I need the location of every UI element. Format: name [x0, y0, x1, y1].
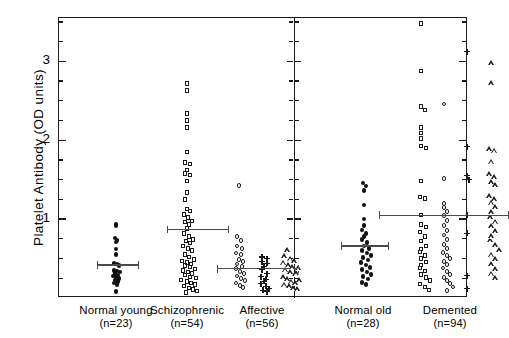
data-point-filled-circle — [366, 277, 371, 282]
y-tick-minor — [462, 159, 466, 160]
y-tick-minor — [462, 258, 466, 259]
data-point-open-circle — [442, 176, 447, 181]
y-tick-major — [459, 61, 466, 62]
data-point-open-square — [195, 289, 199, 293]
data-point-open-circle — [445, 288, 450, 293]
data-point-open-square — [419, 179, 423, 183]
data-point-open-circle — [448, 272, 453, 277]
data-point-open-square — [180, 259, 184, 263]
data-point-plus — [464, 273, 470, 279]
data-point-open-square — [188, 209, 192, 213]
data-point-filled-circle — [360, 248, 365, 253]
data-point-open-square — [419, 136, 423, 140]
data-point-triangle — [492, 278, 498, 283]
data-point-open-circle — [445, 246, 450, 251]
data-point-filled-circle — [114, 252, 119, 257]
data-point-open-square — [185, 88, 189, 92]
data-point-open-square — [185, 111, 189, 115]
data-point-filled-circle — [362, 217, 367, 222]
divider-tick — [287, 61, 293, 62]
data-point-plus — [466, 177, 472, 183]
divider-tick — [287, 218, 293, 219]
data-point-open-square — [419, 144, 423, 148]
data-point-open-square — [185, 179, 189, 183]
divider-tick — [289, 80, 293, 81]
data-point-filled-circle — [369, 272, 374, 277]
y-tick-major — [59, 140, 66, 141]
divider-tick — [289, 159, 293, 160]
data-point-open-square — [193, 267, 197, 271]
data-point-open-square — [418, 250, 422, 254]
data-point-open-square — [194, 276, 198, 280]
data-point-open-square — [424, 244, 428, 248]
divider-tick — [289, 238, 293, 239]
data-point-triangle — [291, 260, 297, 265]
data-point-open-square — [190, 248, 194, 252]
mean-error-bar — [97, 264, 139, 265]
y-tick-minor — [462, 100, 466, 101]
data-point-open-square — [419, 239, 423, 243]
data-point-open-square — [183, 160, 187, 164]
data-point-open-square — [185, 81, 189, 85]
mean-error-bar — [167, 229, 229, 230]
data-point-triangle — [492, 185, 498, 190]
data-point-open-square — [419, 272, 423, 276]
data-point-open-square — [419, 125, 423, 129]
data-point-filled-circle — [364, 282, 369, 287]
data-point-open-circle — [241, 285, 246, 290]
divider-tick — [295, 179, 299, 180]
data-point-open-square — [182, 284, 186, 288]
divider-tick — [289, 120, 293, 121]
data-point-open-circle — [237, 183, 242, 188]
data-point-open-square — [181, 268, 185, 272]
data-point-open-square — [185, 190, 189, 194]
data-point-open-square — [418, 230, 422, 234]
data-point-filled-circle — [367, 246, 372, 251]
data-point-plus — [464, 230, 470, 236]
divider-tick — [289, 100, 293, 101]
data-point-open-square — [423, 196, 427, 200]
data-point-open-circle — [239, 238, 244, 243]
divider-tick — [295, 100, 299, 101]
data-point-triangle — [294, 289, 300, 294]
data-point-open-circle — [448, 256, 453, 261]
data-point-open-square — [193, 282, 197, 286]
y-tick-minor — [59, 258, 63, 259]
divider-tick — [289, 199, 293, 200]
divider-tick — [295, 199, 299, 200]
data-point-open-circle — [451, 285, 456, 290]
data-point-open-square — [419, 131, 423, 135]
y-tick-minor — [59, 80, 63, 81]
divider-tick — [289, 41, 293, 42]
data-point-open-square — [181, 244, 185, 248]
data-point-open-square — [188, 275, 192, 279]
data-point-filled-circle — [362, 223, 367, 228]
data-point-open-circle — [445, 237, 450, 242]
divider-tick — [295, 61, 301, 62]
divider-tick — [295, 41, 299, 42]
data-point-filled-circle — [361, 274, 366, 279]
y-tick-minor — [59, 120, 63, 121]
x-group-label-demented: Demented(n=94) — [395, 304, 505, 330]
data-point-open-square — [419, 21, 423, 25]
y-tick-minor — [59, 41, 63, 42]
divider-tick — [289, 21, 293, 22]
data-point-open-circle — [234, 251, 239, 256]
data-point-open-circle — [445, 218, 450, 223]
y-tick-minor — [462, 21, 466, 22]
data-point-open-square — [428, 278, 432, 282]
data-point-open-square — [183, 171, 187, 175]
data-point-filled-circle — [115, 282, 120, 287]
data-point-open-square — [423, 253, 427, 257]
data-point-open-circle — [235, 244, 240, 249]
data-point-open-square — [418, 266, 422, 270]
data-point-plus — [264, 289, 270, 295]
data-point-open-square — [419, 256, 423, 260]
y-tick-minor — [59, 21, 63, 22]
y-tick-label: 1 — [34, 211, 50, 225]
y-tick-minor — [59, 199, 63, 200]
x-group-label-affective: Affective(n=56) — [207, 304, 317, 330]
data-point-open-square — [185, 118, 189, 122]
data-point-open-circle — [242, 271, 247, 276]
data-point-plus — [464, 286, 470, 292]
